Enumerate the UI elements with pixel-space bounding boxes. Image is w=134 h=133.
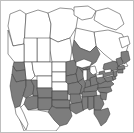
- state-nebraska: [52, 82, 68, 91]
- state-south-carolina: [100, 92, 107, 100]
- state-louisiana: [70, 102, 84, 114]
- state-new-jersey: [113, 71, 117, 77]
- lake-erie: [96, 74, 103, 78]
- state-kansas: [52, 91, 68, 100]
- state-wyoming: [37, 76, 52, 88]
- region-nunavut-west: [48, 8, 78, 42]
- map-thumbnail-frame: [0, 0, 134, 133]
- state-colorado: [37, 88, 52, 98]
- state-connecticut-ri: [117, 69, 123, 73]
- state-south-dakota: [52, 72, 66, 82]
- lake-ontario: [104, 69, 111, 73]
- region-manitoba: [50, 38, 72, 62]
- state-mississippi: [82, 96, 88, 110]
- canada-unshaded-group: [8, 6, 130, 68]
- state-oklahoma: [52, 100, 70, 108]
- region-baffin: [94, 8, 124, 30]
- state-florida: [94, 108, 110, 126]
- north-america-map-svg: [4, 4, 132, 131]
- state-north-dakota: [52, 62, 66, 72]
- state-new-mexico: [38, 98, 52, 110]
- state-alabama: [88, 96, 94, 110]
- lake-michigan: [83, 70, 87, 81]
- map-canvas: [4, 4, 132, 131]
- state-montana: [32, 62, 52, 76]
- region-alberta: [24, 38, 37, 62]
- region-saskatchewan: [37, 38, 50, 62]
